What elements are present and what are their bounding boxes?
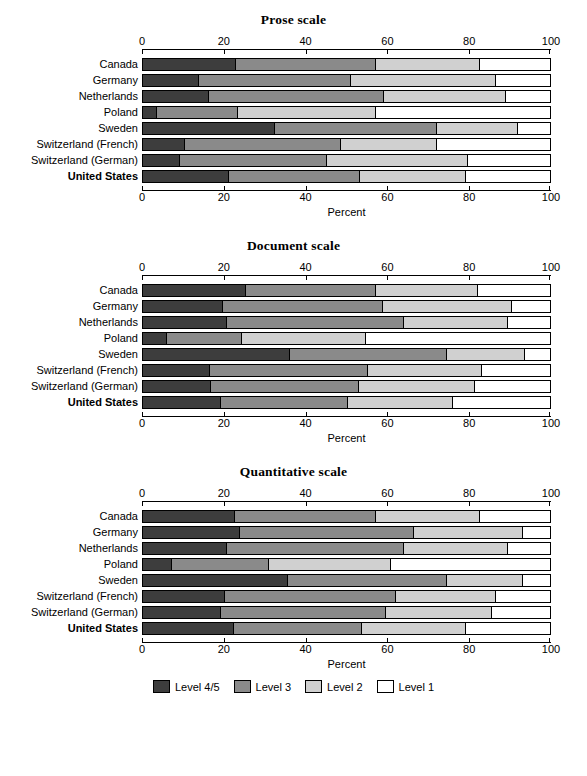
bar-segment-l3 <box>210 381 358 392</box>
bar-segment-l45 <box>143 591 224 602</box>
bar-segment-l45 <box>143 333 166 344</box>
plot-area: CanadaGermanyNetherlandsPolandSwedenSwit… <box>0 282 587 410</box>
bar-segment-l1 <box>465 623 550 634</box>
axis-tick-mark <box>142 50 143 54</box>
table-row: Poland <box>0 556 587 572</box>
axis-tick-label: 0 <box>139 487 145 499</box>
bar-segment-l45 <box>143 397 220 408</box>
bar-segment-l45 <box>143 75 198 86</box>
bar-segment-l2 <box>268 559 389 570</box>
bar-label-switzerland-german: Switzerland (German) <box>0 380 142 392</box>
bar-segment-l1 <box>507 317 550 328</box>
axis-tick-label: 20 <box>218 643 230 655</box>
axis-tick-label: 0 <box>139 261 145 273</box>
bar-segment-l3 <box>233 623 361 634</box>
bar-segment-l45 <box>143 575 287 586</box>
legend-item-l2: Level 2 <box>305 680 362 693</box>
axis-tick-mark <box>469 412 470 416</box>
axis-tick-mark <box>469 186 470 190</box>
panel-2-axis-bottom <box>142 410 551 417</box>
axis-tick-label: 60 <box>381 35 393 47</box>
axis-tick-mark <box>224 276 225 280</box>
axis-tick-mark <box>224 50 225 54</box>
bar-segment-l45 <box>143 107 156 118</box>
axis-tick-label: 100 <box>542 191 560 203</box>
table-row: Switzerland (German) <box>0 378 587 394</box>
bar-label-canada: Canada <box>0 284 142 296</box>
bar-segment-l45 <box>143 171 228 182</box>
bar-segment-l1 <box>517 123 550 134</box>
axis-tick-label: 40 <box>299 417 311 429</box>
bar-label-united-states: United States <box>0 396 142 408</box>
bar-label-united-states: United States <box>0 622 142 634</box>
bar-segment-l3 <box>245 285 375 296</box>
axis-tick-label: 80 <box>463 487 475 499</box>
panel-3-axis-top <box>142 501 551 508</box>
stacked-bar <box>142 300 551 313</box>
bar-segment-l1 <box>365 333 550 344</box>
axis-tick-mark <box>469 638 470 642</box>
table-row: Switzerland (French) <box>0 588 587 604</box>
axis-tick-mark <box>387 502 388 506</box>
axis-tick-mark <box>549 276 550 280</box>
axis-tick-label: 60 <box>381 191 393 203</box>
axis-tick-mark <box>306 186 307 190</box>
bar-segment-l3 <box>166 333 241 344</box>
bar-segment-l45 <box>143 607 220 618</box>
bar-label-netherlands: Netherlands <box>0 90 142 102</box>
bar-segment-l2 <box>375 285 477 296</box>
axis-tick-mark <box>469 50 470 54</box>
bar-segment-l3 <box>220 607 386 618</box>
legend-swatch-l2 <box>305 680 322 693</box>
axis-tick-label: 80 <box>463 643 475 655</box>
bar-segment-l1 <box>479 511 550 522</box>
bar-segment-l3 <box>222 301 382 312</box>
axis-tick-label: 40 <box>299 261 311 273</box>
chart-legend: Level 4/5Level 3Level 2Level 1 <box>0 680 587 693</box>
bar-segment-l3 <box>234 511 375 522</box>
bar-segment-l3 <box>208 91 383 102</box>
axis-tick-label: 60 <box>381 643 393 655</box>
bar-segment-l1 <box>524 349 550 360</box>
bar-segment-l2 <box>413 527 522 538</box>
stacked-bar <box>142 138 551 151</box>
bar-label-united-states: United States <box>0 170 142 182</box>
axis-tick-mark <box>549 50 550 54</box>
bar-label-switzerland-german: Switzerland (German) <box>0 606 142 618</box>
bar-label-sweden: Sweden <box>0 348 142 360</box>
table-row: Canada <box>0 282 587 298</box>
table-row: Germany <box>0 298 587 314</box>
stacked-bar <box>142 170 551 183</box>
bar-segment-l3 <box>209 365 367 376</box>
stacked-bar <box>142 74 551 87</box>
bar-segment-l45 <box>143 155 179 166</box>
axis-tick-mark <box>224 186 225 190</box>
bar-segment-l2 <box>383 91 505 102</box>
bar-segment-l45 <box>143 139 184 150</box>
table-row: Switzerland (German) <box>0 152 587 168</box>
axis-tick-label: 100 <box>542 487 560 499</box>
bar-segment-l2 <box>403 543 508 554</box>
legend-swatch-l1 <box>377 680 394 693</box>
axis-tick-label: 60 <box>381 261 393 273</box>
panel-title: Prose scale <box>0 12 587 28</box>
bar-segment-l2 <box>436 123 517 134</box>
chart-panel-1: Prose scale020406080100CanadaGermanyNeth… <box>0 12 587 218</box>
stacked-bar <box>142 316 551 329</box>
axis-tick-mark <box>469 276 470 280</box>
bar-segment-l45 <box>143 123 274 134</box>
table-row: Switzerland (French) <box>0 362 587 378</box>
bar-segment-l1 <box>465 171 550 182</box>
legend-label: Level 1 <box>399 681 434 693</box>
axis-tick-mark <box>306 50 307 54</box>
panel-1-axis-tick-labels: 020406080100 <box>142 35 551 49</box>
axis-tick-label: 40 <box>299 191 311 203</box>
bar-segment-l3 <box>226 317 404 328</box>
table-row: Switzerland (German) <box>0 604 587 620</box>
stacked-bar <box>142 348 551 361</box>
legend-label: Level 4/5 <box>175 681 220 693</box>
table-row: Netherlands <box>0 540 587 556</box>
bar-label-poland: Poland <box>0 332 142 344</box>
bar-segment-l1 <box>491 607 550 618</box>
bar-segment-l1 <box>511 301 550 312</box>
